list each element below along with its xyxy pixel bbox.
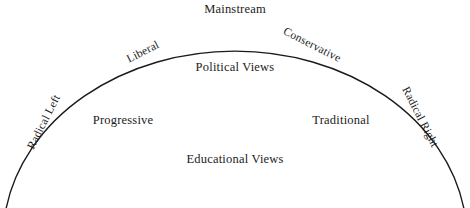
arc-label-mainstream: Mainstream — [204, 3, 266, 16]
spectrum-arc — [0, 0, 470, 208]
diagram-canvas: Radical Left Liberal Mainstream Conserva… — [0, 0, 470, 208]
inner-label-educational-views: Educational Views — [186, 153, 283, 166]
inner-label-traditional: Traditional — [312, 114, 369, 127]
inner-label-progressive: Progressive — [93, 114, 154, 127]
arc-path — [6, 51, 464, 208]
inner-label-political-views: Political Views — [196, 61, 275, 74]
